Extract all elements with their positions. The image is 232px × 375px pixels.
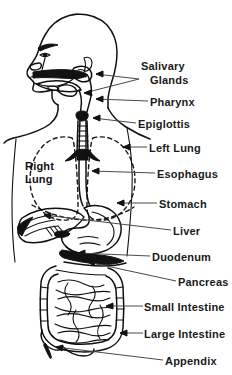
label-pancreas: Pancreas bbox=[178, 276, 229, 288]
label-epiglottis: Epiglottis bbox=[138, 118, 190, 130]
label-esophagus: Esophagus bbox=[157, 168, 218, 180]
digestive-system-diagram: Right Lung Salivary Glands Pharynx Epigl… bbox=[0, 0, 232, 375]
label-left-lung: Left Lung bbox=[149, 142, 201, 154]
label-salivary-glands-line2: Glands bbox=[150, 74, 189, 86]
label-right-lung: Right Lung bbox=[25, 160, 54, 185]
label-right-lung-line2: Lung bbox=[25, 173, 53, 185]
eye-pupil bbox=[43, 54, 47, 57]
label-right-lung-line1: Right bbox=[25, 160, 54, 172]
label-large-intestine: Large Intestine bbox=[144, 328, 225, 340]
label-appendix: Appendix bbox=[165, 355, 217, 367]
label-stomach: Stomach bbox=[159, 198, 207, 210]
label-duodenum: Duodenum bbox=[152, 251, 211, 263]
label-small-intestine: Small Intestine bbox=[144, 301, 225, 313]
anatomy-illustration: Right Lung Salivary Glands Pharynx Epigl… bbox=[0, 0, 232, 375]
label-salivary-glands-line1: Salivary bbox=[141, 60, 185, 72]
label-liver: Liver bbox=[173, 225, 201, 237]
label-pharynx: Pharynx bbox=[150, 96, 195, 108]
